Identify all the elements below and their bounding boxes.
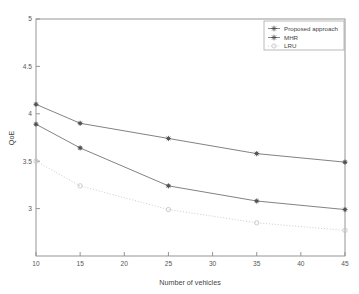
series-lru xyxy=(34,159,347,233)
x-axis-title: Number of vehicles xyxy=(159,278,221,287)
chart-figure: 33.544.55 1015202530354045 Number of veh… xyxy=(0,0,359,294)
data-point-marker xyxy=(33,102,38,107)
plot-frame xyxy=(36,19,345,256)
series-mhr xyxy=(33,122,347,213)
data-point-center xyxy=(255,200,258,203)
legend-label: LRU xyxy=(284,42,296,49)
y-tick-label: 4 xyxy=(28,110,32,117)
data-point-center xyxy=(35,123,38,126)
data-point-center xyxy=(344,161,347,164)
legend-label: MHR xyxy=(284,34,299,41)
data-point-center xyxy=(79,147,82,150)
data-point-center xyxy=(79,122,82,125)
data-point-marker xyxy=(166,136,171,141)
x-tick-label: 30 xyxy=(209,260,217,267)
x-tick-label: 45 xyxy=(341,260,349,267)
y-tick-label: 3.5 xyxy=(23,158,32,165)
data-point-center xyxy=(167,137,170,140)
x-tick-label: 10 xyxy=(32,260,40,267)
x-tick-label: 35 xyxy=(253,260,261,267)
star-icon xyxy=(271,26,277,32)
data-point-marker xyxy=(78,184,82,188)
data-point-center xyxy=(35,103,38,106)
data-point-marker xyxy=(342,207,347,212)
series-group xyxy=(33,102,347,233)
legend-label: Proposed approach xyxy=(284,25,339,32)
data-point-marker xyxy=(33,122,38,127)
series-line xyxy=(36,104,345,162)
x-tick-label: 25 xyxy=(165,260,173,267)
data-point-marker xyxy=(78,145,83,150)
star-icon xyxy=(271,35,277,41)
data-point-marker xyxy=(166,183,171,188)
data-point-marker xyxy=(342,160,347,165)
y-tick-label: 4.5 xyxy=(23,63,32,70)
x-tick-label: 20 xyxy=(121,260,129,267)
y-axis-title: QoE xyxy=(7,131,16,146)
series-proposed-approach xyxy=(33,102,347,165)
series-line xyxy=(36,124,345,209)
data-point-center xyxy=(344,208,347,211)
data-point-marker xyxy=(254,198,259,203)
y-tick-label: 3 xyxy=(28,205,32,212)
chart-legend: Proposed approach MHR LRU xyxy=(264,21,344,50)
x-axis-ticks: 1015202530354045 xyxy=(32,252,349,267)
y-tick-label: 5 xyxy=(28,15,32,22)
x-tick-label: 40 xyxy=(297,260,305,267)
x-tick-label: 15 xyxy=(76,260,84,267)
data-point-marker xyxy=(78,121,83,126)
y-axis-ticks: 33.544.55 xyxy=(23,15,40,212)
data-point-marker xyxy=(254,151,259,156)
line-chart-canvas: 33.544.55 1015202530354045 Number of veh… xyxy=(0,0,359,294)
data-point-center xyxy=(167,185,170,188)
data-point-marker xyxy=(166,207,170,211)
data-point-center xyxy=(255,152,258,155)
series-line xyxy=(36,161,345,230)
